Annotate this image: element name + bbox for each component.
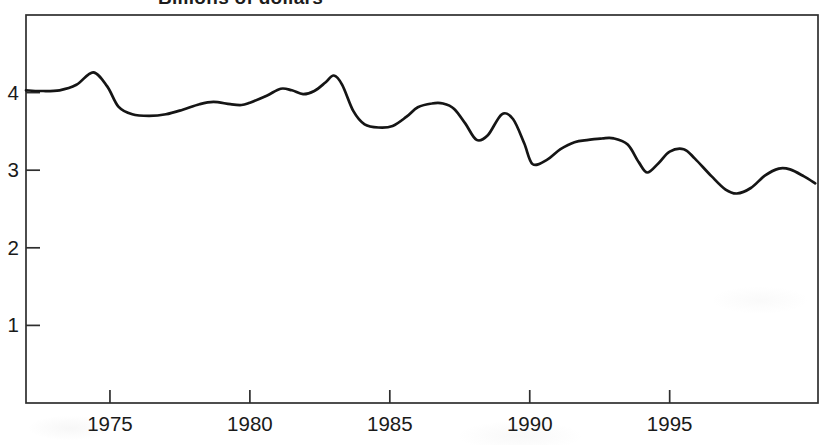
x-axis-tick-label: 1990 xyxy=(507,412,553,435)
y-axis-tick-label: 3 xyxy=(8,158,19,181)
data-line xyxy=(26,72,815,193)
y-axis-tick-label: 4 xyxy=(8,81,19,104)
line-chart-canvas: 123419751980198519901995 xyxy=(0,0,825,445)
x-axis-tick-label: 1975 xyxy=(87,412,133,435)
x-axis-tick-label: 1985 xyxy=(367,412,413,435)
x-axis-tick-label: 1980 xyxy=(227,412,273,435)
y-axis-tick-label: 2 xyxy=(8,236,19,259)
y-axis-tick-label: 1 xyxy=(8,313,19,336)
plot-frame xyxy=(26,15,818,403)
x-axis-tick-label: 1995 xyxy=(647,412,693,435)
chart-figure: Billions of dollars 12341975198019851990… xyxy=(0,0,825,445)
